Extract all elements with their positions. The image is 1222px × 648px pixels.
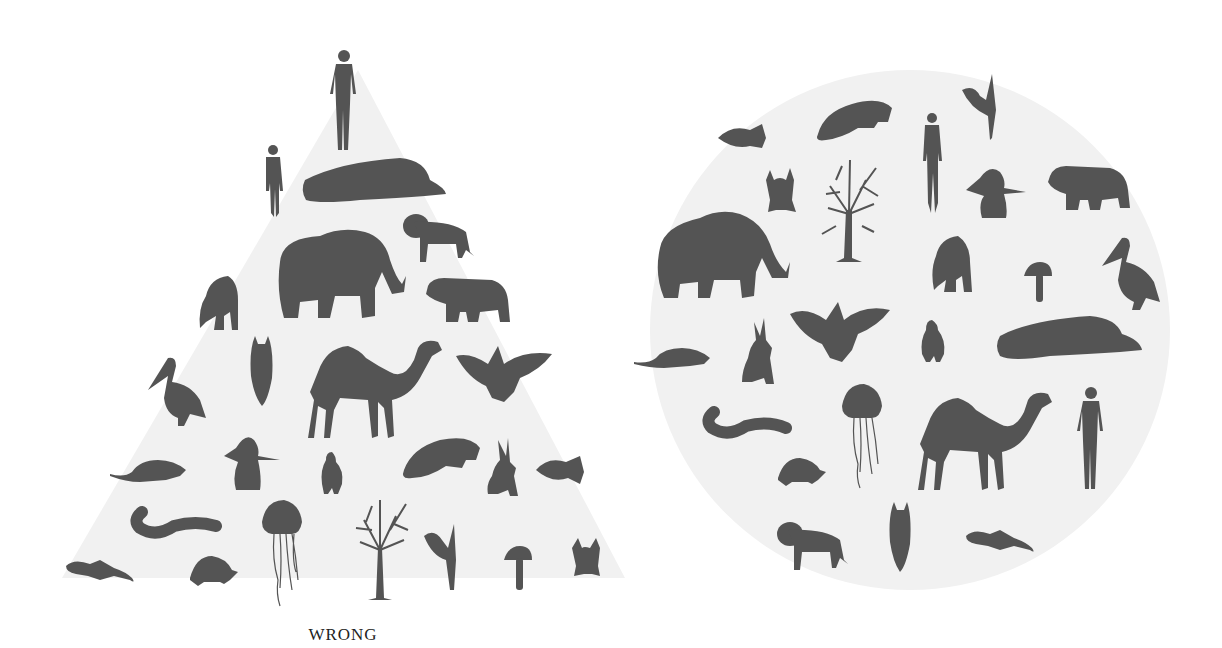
pyramid-diagram [0, 0, 640, 648]
clownfish-icon [718, 124, 766, 148]
pyramid-shape [62, 70, 625, 578]
wrong-label: WRONG [243, 625, 443, 645]
circle-panel: RIGHT [630, 0, 1222, 648]
gorilla-icon [200, 276, 238, 330]
circle-diagram [630, 0, 1222, 648]
pyramid-panel: WRONG [0, 0, 640, 648]
